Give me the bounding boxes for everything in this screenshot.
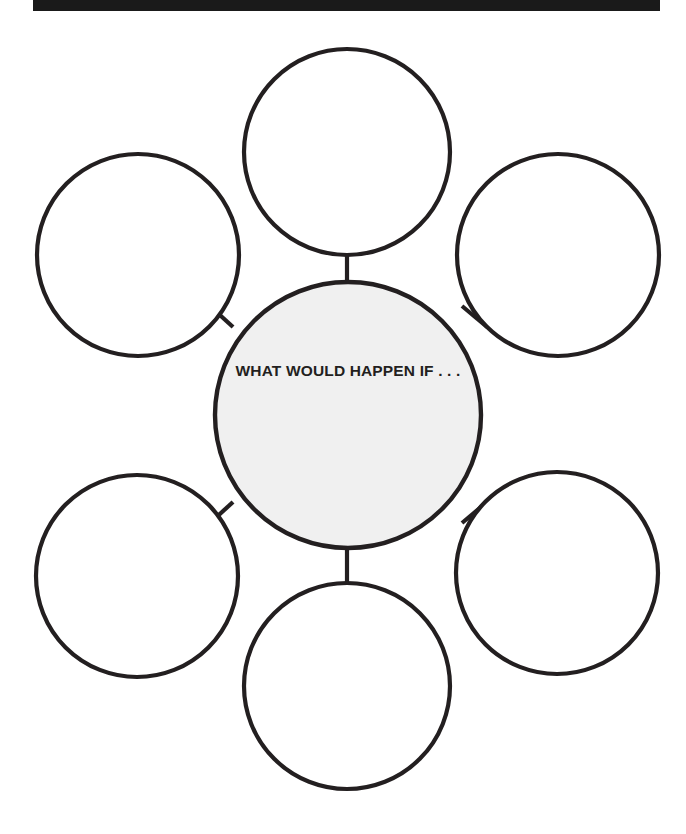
worksheet-page: WHAT WOULD HAPPEN IF . . . WHAT WOULD HA…: [0, 0, 686, 834]
bubble-lower-right[interactable]: [456, 472, 658, 674]
bubble-bottom[interactable]: [244, 583, 450, 789]
bubble-lower-left[interactable]: [36, 475, 238, 677]
center-bubble-group: WHAT WOULD HAPPEN IF . . .: [215, 282, 481, 548]
bubble-top[interactable]: [244, 49, 450, 255]
center-bubble[interactable]: [215, 282, 481, 548]
bubble-upper-left[interactable]: [37, 154, 239, 356]
bubble-upper-right[interactable]: [457, 154, 659, 356]
center-bubble-label: WHAT WOULD HAPPEN IF . . .: [236, 362, 461, 379]
bubble-map-diagram: WHAT WOULD HAPPEN IF . . .: [0, 0, 686, 834]
